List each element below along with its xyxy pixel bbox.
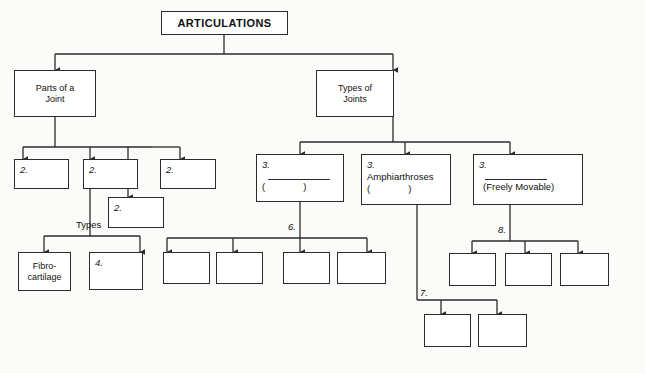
joint-type-3-subtitle: (Freely Movable) [479, 181, 582, 192]
node-joint-type-diarthroses: 3. (Freely Movable) [473, 154, 583, 205]
joint-type-1-blank [268, 171, 330, 180]
part-2-number: 2. [89, 164, 137, 175]
blank-box-6-1 [163, 252, 210, 284]
node-joint-type-amphiarthroses: 3. Amphiarthroses () [361, 154, 451, 205]
blank-box-6-4 [337, 252, 386, 284]
node-fibro-cartilage: Fibro- cartilage [18, 252, 71, 291]
edge-label-6: 6. [288, 221, 296, 232]
joint-type-2-name: Amphiarthroses [367, 171, 450, 182]
fibro-cartilage-label: Fibro- cartilage [27, 261, 61, 283]
part-4-number: 2. [114, 202, 163, 213]
node-part-2: 2. [83, 159, 138, 189]
node-parts-of-a-joint: Parts of a Joint [14, 70, 96, 117]
blank-box-8-2 [505, 253, 552, 286]
joint-type-3-number: 3. [479, 159, 582, 170]
types-sublabel: Types [76, 219, 101, 230]
node-part-1: 2. [14, 159, 69, 189]
root-label: ARTICULATIONS [177, 18, 271, 29]
part-1-number: 2. [20, 164, 68, 175]
node-type-4: 4. [89, 252, 143, 290]
articulations-diagram: ARTICULATIONS Parts of a Joint Types of … [0, 0, 645, 373]
blank-box-7-2 [478, 314, 527, 347]
joint-type-2-paren: () [367, 183, 450, 194]
part-3-number: 2. [166, 164, 215, 175]
parts-of-a-joint-label: Parts of a Joint [36, 83, 75, 105]
node-types-of-joints: Types of Joints [316, 70, 394, 117]
node-joint-type-synarthroses: 3. () [256, 154, 344, 202]
edge-label-8: 8. [498, 224, 506, 235]
node-part-3: 2. [160, 159, 216, 189]
joint-type-1-number: 3. [262, 159, 343, 170]
joint-type-1-paren: () [262, 181, 343, 192]
node-part-4: 2. [108, 197, 164, 228]
edge-label-7: 7. [420, 287, 428, 298]
blank-box-8-3 [560, 253, 609, 286]
joint-type-2-number: 3. [367, 159, 450, 170]
type-4-number: 4. [95, 257, 142, 268]
blank-box-7-1 [424, 314, 471, 347]
types-of-joints-label: Types of Joints [338, 83, 372, 105]
blank-box-6-3 [283, 252, 330, 284]
blank-box-6-2 [216, 252, 263, 284]
root-node-articulations: ARTICULATIONS [161, 11, 288, 35]
blank-box-8-1 [449, 253, 496, 286]
joint-type-3-blank [485, 171, 547, 180]
